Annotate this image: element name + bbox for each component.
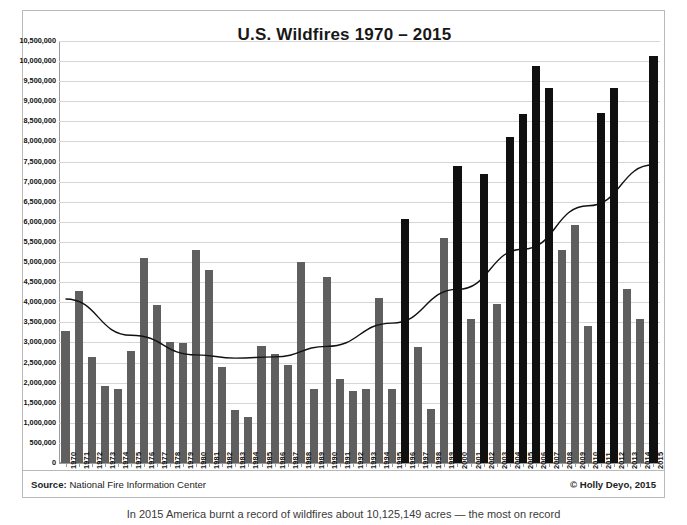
bar-fill: [467, 319, 475, 463]
bar-fill: [127, 351, 135, 463]
footer-divider: [23, 470, 664, 471]
x-tick: [183, 463, 184, 467]
x-tick-label: 1987: [291, 452, 300, 469]
x-tick-label: 1993: [369, 452, 378, 469]
below-chart-caption: In 2015 America burnt a record of wildfi…: [0, 508, 687, 525]
x-tick: [157, 463, 158, 467]
x-tick-label: 1983: [238, 452, 247, 469]
x-tick: [575, 463, 576, 467]
x-tick: [262, 463, 263, 467]
x-tick-label: 1989: [317, 452, 326, 469]
source-label: Source:: [31, 479, 67, 490]
x-tick-label: 2012: [617, 452, 626, 469]
x-tick: [588, 463, 589, 467]
y-tick-label: 10,000,000: [0, 57, 56, 65]
bar: [75, 291, 83, 463]
bar: [127, 351, 135, 463]
bar: [610, 88, 618, 463]
bar-fill: [440, 238, 448, 463]
x-tick: [118, 463, 119, 467]
x-tick: [327, 463, 328, 467]
x-tick-label: 1971: [82, 452, 91, 469]
x-tick-label: 1994: [382, 452, 391, 469]
x-tick-label: 2011: [604, 452, 613, 469]
bar: [414, 347, 422, 463]
x-tick: [288, 463, 289, 467]
bar-fill: [75, 291, 83, 463]
x-tick-label: 1980: [199, 452, 208, 469]
x-tick: [601, 463, 602, 467]
x-tick: [392, 463, 393, 467]
bar-fill: [284, 365, 292, 463]
bar-fill: [401, 219, 409, 463]
x-tick: [627, 463, 628, 467]
x-tick-label: 1976: [147, 452, 156, 469]
y-tick-label: 5,500,000: [0, 238, 56, 246]
x-tick: [340, 463, 341, 467]
x-tick-label: 1974: [121, 452, 130, 469]
y-tick-label: 8,500,000: [0, 117, 56, 125]
y-tick-label: 3,000,000: [0, 338, 56, 346]
y-tick-label: 7,500,000: [0, 158, 56, 166]
y-tick-label: 9,500,000: [0, 77, 56, 85]
x-tick-label: 1970: [69, 452, 78, 469]
x-tick-label: 2005: [526, 452, 535, 469]
x-tick: [209, 463, 210, 467]
y-tick-label: 8,000,000: [0, 137, 56, 145]
x-tick-label: 1988: [304, 452, 313, 469]
x-tick: [444, 463, 445, 467]
x-tick: [235, 463, 236, 467]
x-tick-label: 1985: [265, 452, 274, 469]
chart-page: U.S. Wildfires 1970 – 2015 Acres Burned …: [0, 0, 687, 525]
bar: [506, 137, 514, 463]
x-tick-label: 2010: [591, 452, 600, 469]
x-tick: [497, 463, 498, 467]
bar: [401, 219, 409, 463]
x-tick-label: 1981: [212, 452, 221, 469]
y-tick-label: 3,500,000: [0, 318, 56, 326]
bar-fill: [649, 56, 657, 463]
bar-fill: [545, 88, 553, 463]
y-tick-label: 1,500,000: [0, 399, 56, 407]
y-tick-label: 2,500,000: [0, 359, 56, 367]
x-tick: [131, 463, 132, 467]
x-tick-label: 1995: [395, 452, 404, 469]
bar: [271, 354, 279, 463]
x-tick-label: 2004: [513, 452, 522, 469]
x-tick-label: 1972: [95, 452, 104, 469]
x-tick: [314, 463, 315, 467]
x-tick-label: 1979: [186, 452, 195, 469]
x-tick: [79, 463, 80, 467]
bar: [532, 66, 540, 463]
chart-frame: U.S. Wildfires 1970 – 2015 Acres Burned …: [22, 10, 665, 498]
bar-fill: [88, 357, 96, 463]
x-tick: [144, 463, 145, 467]
bar-fill: [506, 137, 514, 463]
bar: [323, 277, 331, 463]
bar-fill: [584, 326, 592, 463]
bar: [480, 174, 488, 463]
bar: [284, 365, 292, 463]
x-tick-label: 1992: [356, 452, 365, 469]
bar: [336, 379, 344, 463]
x-tick: [92, 463, 93, 467]
bar: [584, 326, 592, 463]
x-tick-label: 2013: [630, 452, 639, 469]
bar-fill: [453, 166, 461, 463]
bar: [440, 238, 448, 463]
y-tick-label: 2,000,000: [0, 379, 56, 387]
x-tick: [366, 463, 367, 467]
x-tick-label: 1973: [108, 452, 117, 469]
x-tick: [66, 463, 67, 467]
x-tick: [418, 463, 419, 467]
y-tick-label: 4,000,000: [0, 298, 56, 306]
bar-fill: [179, 343, 187, 463]
x-tick: [562, 463, 563, 467]
bar: [597, 113, 605, 463]
x-tick-label: 1982: [225, 452, 234, 469]
x-tick-label: 2003: [500, 452, 509, 469]
x-tick-label: 1975: [134, 452, 143, 469]
bar: [205, 270, 213, 463]
y-tick-label: 0: [0, 459, 56, 467]
x-tick-label: 2015: [656, 452, 665, 469]
